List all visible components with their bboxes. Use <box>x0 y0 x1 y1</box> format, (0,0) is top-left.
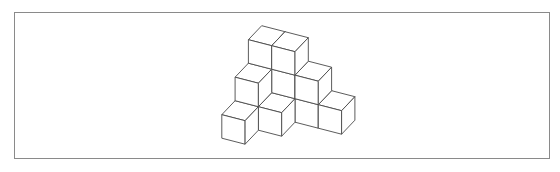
cube <box>222 101 259 145</box>
cube-stack-diagram <box>0 0 560 172</box>
